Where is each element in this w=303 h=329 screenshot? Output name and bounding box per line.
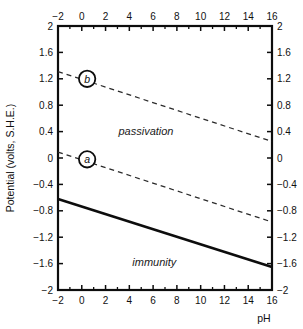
y-tick-label-right: −0.4: [277, 179, 297, 190]
x-tick-label-top: 4: [127, 11, 133, 22]
x-axis-title: pH: [257, 312, 270, 324]
top-axis-tick-labels: −20246810121416: [52, 11, 278, 22]
x-tick-label-top: 14: [243, 11, 255, 22]
y-tick-label-left: −2: [42, 285, 54, 296]
x-tick-label-bottom: 10: [195, 295, 207, 306]
x-tick-label-bottom: 2: [103, 295, 109, 306]
bottom-axis-tick-labels: −20246810121416: [52, 295, 278, 306]
x-tick-label-top: 2: [103, 11, 109, 22]
region-label-immunity: immunity: [132, 256, 178, 268]
marker-label-a: a: [84, 153, 90, 165]
x-tick-label-top: 0: [79, 11, 85, 22]
x-tick-label-bottom: 4: [127, 295, 133, 306]
y-tick-label-left: 1.6: [39, 47, 53, 58]
y-tick-label-left: −1.6: [33, 258, 53, 269]
x-tick-label-top: 6: [150, 11, 156, 22]
x-tick-label-top: 8: [174, 11, 180, 22]
y-tick-label-left: 0.4: [39, 126, 53, 137]
x-tick-label-bottom: 12: [219, 295, 231, 306]
x-tick-label-top: 10: [195, 11, 207, 22]
y-tick-label-left: 0: [47, 153, 53, 164]
line-markers: ba: [79, 71, 95, 168]
marker-label-b: b: [84, 73, 90, 85]
left-axis-tick-labels: 21.61.20.80.40−0.4−0.8−1.2−1.6−2: [33, 21, 53, 296]
y-tick-label-right: 1.6: [277, 47, 291, 58]
y-tick-label-left: 0.8: [39, 100, 53, 111]
y-tick-label-right: 0: [277, 153, 283, 164]
y-tick-label-left: −1.2: [33, 232, 53, 243]
region-annotations: passivationimmunity: [117, 125, 177, 268]
x-tick-label-bottom: 6: [150, 295, 156, 306]
y-tick-label-left: −0.8: [33, 205, 53, 216]
y-tick-label-left: −0.4: [33, 179, 53, 190]
y-tick-label-right: −1.6: [277, 258, 297, 269]
chart-canvas: −20246810121416 −20246810121416 21.61.20…: [0, 0, 303, 329]
y-tick-label-right: 0.4: [277, 126, 291, 137]
region-label-passivation: passivation: [117, 125, 173, 137]
y-tick-label-right: 0.8: [277, 100, 291, 111]
pourbaix-diagram-figure: −20246810121416 −20246810121416 21.61.20…: [0, 0, 303, 329]
y-tick-label-left: 2: [47, 21, 53, 32]
y-tick-label-right: −1.2: [277, 232, 297, 243]
data-series-layer: [58, 72, 272, 267]
y-tick-label-right: 1.2: [277, 73, 291, 84]
y-tick-label-right: −0.8: [277, 205, 297, 216]
x-tick-label-bottom: 16: [266, 295, 278, 306]
x-tick-label-top: 12: [219, 11, 231, 22]
y-tick-label-right: 2: [277, 21, 283, 32]
x-tick-label-bottom: 0: [79, 295, 85, 306]
x-tick-label-bottom: 8: [174, 295, 180, 306]
y-tick-label-left: 1.2: [39, 73, 53, 84]
right-axis-tick-labels: 21.61.20.80.40−0.4−0.8−1.2−1.6−2: [277, 21, 297, 296]
x-tick-label-bottom: 14: [243, 295, 255, 306]
y-tick-label-right: −2: [277, 285, 289, 296]
y-axis-title: Potential (volts, S.H.E.): [4, 104, 16, 213]
x-tick-label-bottom: −2: [52, 295, 64, 306]
x-tick-label-top: −2: [52, 11, 64, 22]
